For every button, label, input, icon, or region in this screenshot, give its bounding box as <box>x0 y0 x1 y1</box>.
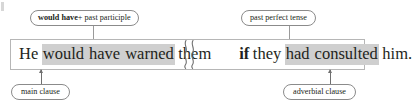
arrow-adverbial-clause <box>330 70 331 85</box>
word-him: him. <box>382 46 412 63</box>
callout-main-clause-label: main clause <box>21 88 60 96</box>
word-had: had <box>285 44 311 66</box>
arrow-main-clause <box>41 70 42 85</box>
adverbial-clause-sentence: if they had consulted him. <box>233 44 412 66</box>
crop-artifact <box>1 2 4 11</box>
callout-main-clause: main clause <box>11 84 70 100</box>
callout-past-perfect-label: past perfect tense <box>250 14 307 22</box>
word-have: have <box>85 44 121 66</box>
word-if: if <box>239 46 249 63</box>
callout-would-have-bold: would have <box>38 14 78 22</box>
callout-would-have-rest: + past participle <box>78 14 131 22</box>
callout-adverbial-clause: adverbial clause <box>283 84 356 100</box>
word-they: they <box>253 46 281 63</box>
word-warned: warned <box>121 44 175 66</box>
word-would: would <box>42 44 85 66</box>
word-consulted: consulted <box>311 44 379 66</box>
callout-adverbial-clause-label: adverbial clause <box>293 88 346 96</box>
word-he: He <box>19 46 38 63</box>
clause-divider-wavy-icon <box>181 40 201 69</box>
callout-would-have: would have + past participle <box>30 10 139 26</box>
callout-past-perfect-tense: past perfect tense <box>241 10 316 26</box>
